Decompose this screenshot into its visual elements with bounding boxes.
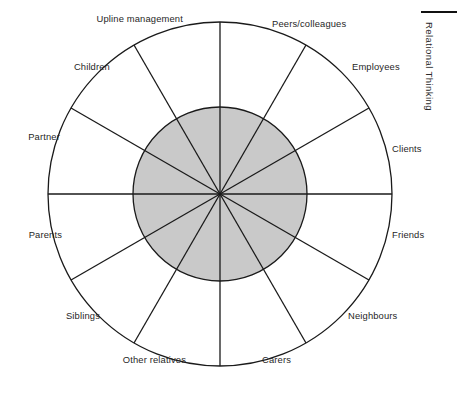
sector-label: Parents	[29, 229, 62, 240]
sector-label: Other relatives	[123, 354, 186, 365]
sector-label: Siblings	[66, 310, 100, 321]
running-head-rule	[421, 11, 457, 13]
running-head-rail: Relational Thinking	[410, 0, 460, 393]
running-head-title: Relational Thinking	[424, 22, 435, 111]
sector-label: Partner	[28, 131, 60, 142]
wheel-diagram	[0, 0, 410, 393]
sector-label: Children	[74, 61, 110, 72]
sector-label: Carers	[262, 354, 291, 365]
figure-page: Peers/colleaguesEmployeesClientsFriendsN…	[0, 0, 460, 393]
relational-wheel-figure: Peers/colleaguesEmployeesClientsFriendsN…	[0, 0, 410, 393]
sector-label: Peers/colleagues	[272, 18, 346, 29]
sector-label: Employees	[352, 61, 400, 72]
sector-label: Upline management	[97, 13, 183, 24]
sector-label: Neighbours	[348, 310, 397, 321]
